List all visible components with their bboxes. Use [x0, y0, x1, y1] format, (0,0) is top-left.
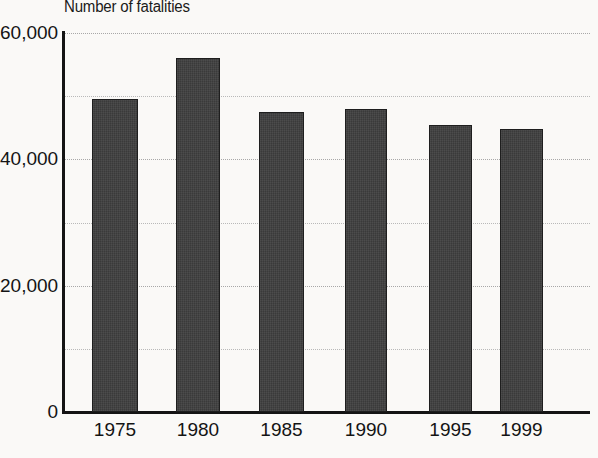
plot-area: [65, 33, 590, 412]
bar-1985: [259, 112, 304, 412]
x-tick-label-1985: 1985: [252, 419, 312, 440]
y-tick-label-40000: 40,000: [0, 149, 58, 168]
x-tick-label-1975: 1975: [85, 419, 145, 440]
x-tick-label-1999: 1999: [492, 419, 552, 440]
x-tick-label-1995: 1995: [421, 419, 481, 440]
gridline-50000: [65, 96, 590, 97]
bar-1980: [176, 58, 220, 412]
gridline-60000: [65, 33, 590, 34]
bar-1990: [345, 109, 387, 412]
y-tick-label-60000: 60,000: [0, 23, 58, 42]
bar-1999: [500, 129, 543, 412]
bar-1995: [429, 125, 472, 412]
chart-title: Number of fatalities: [64, 0, 190, 16]
x-tick-label-1980: 1980: [168, 419, 228, 440]
x-tick-label-1990: 1990: [336, 419, 396, 440]
bar-chart-figure: Number of fatalities 60,00040,00020,0000…: [0, 0, 598, 458]
y-tick-label-0: 0: [0, 402, 58, 421]
y-tick-label-20000: 20,000: [0, 276, 58, 295]
bar-1975: [92, 99, 138, 412]
